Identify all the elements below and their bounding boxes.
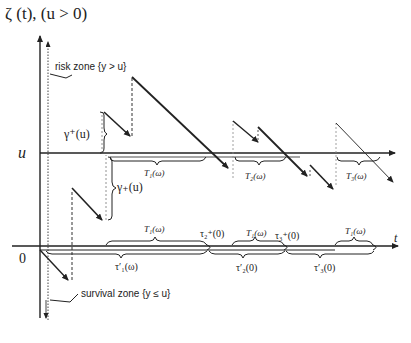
brace-tau2-minus [209,251,285,258]
survival-zone-pointer [50,294,78,302]
t-axis-label: t [394,231,397,246]
T1-axis-label-c: T₁(ω) [345,226,365,236]
y-axis-label: ζ (t), (u > 0) [5,4,87,24]
path-seg-2 [104,112,130,136]
brace-gamma-upper [100,112,107,153]
T1-axis-label-b: T₁(ω) [246,228,266,238]
path-seg-6 [310,165,333,189]
u-level-label: u [18,144,26,162]
ruin-process-diagram: ζ (t), (u > 0) risk zone {y > u} surviva… [0,0,411,343]
tau1-minus-label: τ′₁(ω) [115,261,138,272]
brace-tau1-minus [46,251,207,258]
risk-zone-label: risk zone {y > u} [55,61,126,72]
path-seg-4 [233,121,258,142]
gamma-upper-label: γ⁺(u) [64,127,90,142]
survival-zone-label: survival zone {y ≤ u} [81,288,170,299]
brace-gamma-lower [108,157,116,220]
risk-zone-pointer [50,74,72,78]
tau2-plus-label: τ₂⁺(0) [200,228,224,239]
tau3-plus-label: τ₃⁺(0) [275,230,299,241]
path-seg-3 [132,77,228,168]
brace-tau3-minus [286,251,374,258]
path-seg-1 [72,188,102,220]
gamma-lower-label: γ₊(u) [117,180,143,195]
tau3-minus-label: τ′₃(0) [314,262,335,273]
tau2-minus-label: τ′₂(0) [236,262,257,273]
brace-T1-axis-c [335,237,373,245]
brace-T2-level [235,157,286,165]
path-seg-5 [258,127,307,176]
T3-level-label: T₃(ω) [346,171,366,181]
origin-label: 0 [19,251,26,267]
brace-T1-axis-a [106,237,207,245]
brace-T3-level [337,157,380,165]
T1-level-label: T₁(ω) [144,168,164,178]
T1-axis-label-a: T₁(ω) [144,224,164,234]
T2-level-label: T₂(ω) [245,171,265,181]
brace-T1-level [110,157,206,165]
